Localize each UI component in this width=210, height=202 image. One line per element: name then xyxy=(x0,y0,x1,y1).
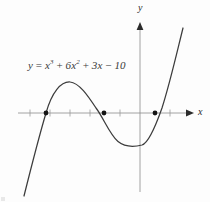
arrow-right-icon xyxy=(186,110,194,117)
y-axis-label: y xyxy=(138,2,142,13)
equation-equals: = xyxy=(33,59,45,71)
graph-figure: y = x3 + 6x2 + 3x − 10 y x xyxy=(0,0,210,202)
equation-minus: − xyxy=(102,59,114,71)
root-point-middle xyxy=(102,111,107,116)
equation-plus-2: + xyxy=(80,59,92,71)
corner-artifact xyxy=(1,197,5,201)
root-point-left xyxy=(44,111,49,116)
root-point-right xyxy=(153,111,158,116)
plot-canvas xyxy=(0,0,210,202)
equation-plus-1: + xyxy=(54,59,66,71)
arrow-up-icon xyxy=(137,22,144,30)
equation-constant: 10 xyxy=(114,59,125,71)
x-axis-label: x xyxy=(198,106,202,117)
equation-label: y = x3 + 6x2 + 3x − 10 xyxy=(28,59,126,71)
equation-term3: 3x xyxy=(92,59,103,71)
